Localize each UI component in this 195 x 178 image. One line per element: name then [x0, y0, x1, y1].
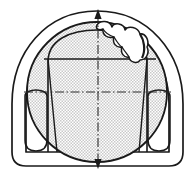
cross-section-diagram	[0, 0, 195, 178]
figure-root	[0, 0, 195, 178]
